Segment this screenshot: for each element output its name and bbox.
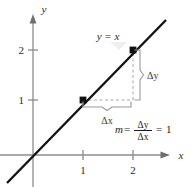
slope-formula-group: m = Δy Δx = 1	[115, 120, 172, 142]
slope-formula-denominator: Δx	[138, 132, 149, 142]
delta-y-bracket-path	[135, 50, 144, 100]
slope-formula-equals-2: =	[156, 123, 162, 135]
slope-formula-equals-1: =	[124, 123, 130, 135]
slope-formula-result: 1	[166, 123, 172, 135]
y-tick-label-2: 2	[19, 44, 25, 56]
tick-marks-group	[28, 50, 133, 160]
dashed-lines-group	[83, 50, 133, 100]
x-tick-label-1: 1	[80, 164, 86, 176]
x-axis-arrowhead	[161, 152, 171, 159]
delta-x-bracket	[83, 102, 131, 111]
delta-x-label: Δx	[101, 115, 112, 126]
x-axis-label: x	[178, 149, 184, 161]
line-y-equals-x	[7, 20, 166, 183]
y-axis-arrowhead	[30, 14, 37, 24]
slope-formula-m: m	[115, 123, 123, 135]
delta-y-bracket	[135, 50, 144, 100]
equation-callout-pointer	[110, 42, 127, 50]
equation-label: y = x	[96, 30, 120, 42]
y-axis-label: y	[41, 3, 47, 15]
y-tick-label-1: 1	[19, 94, 25, 106]
slope-formula-numerator: Δy	[138, 120, 149, 130]
delta-x-bracket-path	[83, 102, 131, 111]
graph-canvas: 2 1 1 2 y x Δy Δx y = x m	[0, 0, 193, 187]
x-tick-label-2: 2	[130, 164, 136, 176]
graph-figure: 2 1 1 2 y x Δy Δx y = x m	[0, 0, 193, 187]
delta-y-label: Δy	[147, 70, 158, 81]
